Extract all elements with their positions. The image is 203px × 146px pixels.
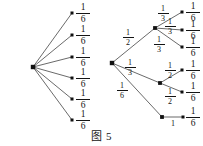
right-stage1-edge-probability-1: 12 [123, 29, 134, 47]
fraction-denominator: 2 [165, 72, 176, 80]
fraction-numerator: 1 [165, 62, 176, 70]
fraction-numerator: 1 [125, 59, 136, 67]
fraction-numerator: 1 [186, 82, 200, 92]
right-internal-node-middle [158, 81, 162, 85]
fraction-numerator: 1 [123, 29, 134, 37]
left-leaf-node-2 [71, 34, 74, 37]
right-leaf-node-6 [182, 116, 185, 119]
fraction-numerator: 1 [76, 89, 90, 99]
right-leaf-node-2 [181, 29, 184, 32]
left-root-node [31, 65, 35, 69]
left-fan-nodes [31, 12, 74, 122]
left-leaf-node-3 [71, 56, 74, 59]
fraction-denominator: 3 [125, 69, 136, 77]
right-internal-node-lower [160, 115, 164, 119]
fraction-numerator: 1 [76, 3, 90, 13]
fraction-denominator: 6 [186, 94, 200, 104]
right-leaf-node-5 [181, 91, 184, 94]
fraction-numerator: 1 [186, 60, 200, 70]
fraction-numerator: 1 [186, 107, 200, 117]
fraction-numerator: 1 [158, 5, 169, 13]
right-stage2-edge-probability-5: 12 [165, 88, 176, 106]
fraction-denominator: 6 [186, 72, 200, 82]
fraction-denominator: 6 [76, 37, 90, 47]
left-leaf-node-4 [71, 77, 74, 80]
fraction-numerator: 1 [186, 20, 200, 30]
branch-left-4 [33, 67, 72, 78]
left-leaf-node-6 [71, 119, 74, 122]
left-leaf-probability-5: 16 [76, 89, 90, 110]
right-stage1-edge-probability-3: 16 [117, 82, 128, 100]
left-leaf-node-5 [71, 98, 74, 101]
left-leaf-probability-4: 16 [76, 68, 90, 89]
left-leaf-probability-2: 16 [76, 25, 90, 46]
right-stage1-edge-probability-2: 13 [125, 59, 136, 77]
fraction-numerator: 1 [117, 82, 128, 90]
right-leaf-probability-6: 16 [186, 107, 200, 128]
branch-left-5 [33, 67, 72, 99]
right-root-node [110, 61, 114, 65]
figure-caption: 图 5 [0, 127, 203, 143]
right-leaf-node-3 [181, 46, 184, 49]
right-leaf-node-1 [181, 11, 184, 14]
fraction-numerator: 1 [165, 88, 176, 96]
fraction-numerator: 1 [154, 36, 165, 44]
fraction-denominator: 2 [123, 39, 134, 47]
fraction-denominator: 6 [186, 49, 200, 59]
left-leaf-probability-1: 16 [76, 3, 90, 24]
left-leaf-probability-3: 16 [76, 47, 90, 68]
right-stage2-edge-probability-3: 13 [154, 36, 165, 54]
fraction-denominator: 3 [154, 46, 165, 54]
branch-right-stage1-2 [112, 63, 160, 83]
fraction-numerator: 1 [76, 68, 90, 78]
fraction-numerator: 1 [76, 25, 90, 35]
fraction-denominator: 6 [76, 15, 90, 25]
fraction-denominator: 3 [165, 28, 176, 36]
right-leaf-probability-5: 16 [186, 82, 200, 103]
right-internal-node-upper [153, 26, 157, 30]
left-fan-edges [33, 13, 72, 120]
figure-container: 1616161616161213161313131212116161616161… [0, 0, 203, 146]
branch-left-6 [33, 67, 72, 120]
fraction-numerator: 1 [165, 18, 176, 26]
right-leaf-node-4 [181, 69, 184, 72]
right-stage2-edge-probability-4: 12 [165, 62, 176, 80]
fraction-numerator: 1 [76, 47, 90, 57]
right-leaf-probability-4: 16 [186, 60, 200, 81]
fraction-numerator: 1 [186, 37, 200, 47]
fraction-denominator: 2 [165, 98, 176, 106]
fraction-numerator: 1 [186, 2, 200, 12]
right-stage2-edge-probability-2: 13 [165, 18, 176, 36]
fraction-numerator: 1 [76, 110, 90, 120]
fraction-denominator: 6 [117, 92, 128, 100]
left-leaf-node-1 [71, 12, 74, 15]
right-leaf-probability-3: 16 [186, 37, 200, 58]
